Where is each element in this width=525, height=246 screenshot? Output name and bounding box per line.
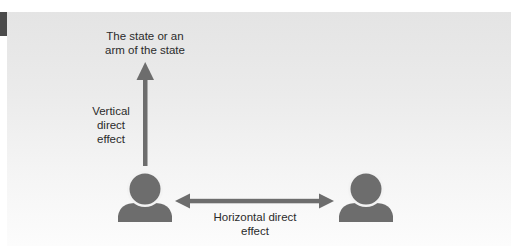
arrowhead-left-icon bbox=[175, 194, 190, 209]
state-label-line1: The state or an bbox=[85, 29, 205, 43]
arrowhead-right-icon bbox=[319, 194, 334, 209]
person-right-icon bbox=[339, 171, 393, 222]
horizontal-label-line2: effect bbox=[195, 224, 315, 238]
state-label-line2: arm of the state bbox=[85, 43, 205, 57]
vertical-label-line3: effect bbox=[76, 132, 146, 146]
diagram-stage: The state or an arm of the state Vertica… bbox=[0, 0, 525, 246]
horizontal-effect-label: Horizontal direct effect bbox=[195, 210, 315, 238]
person-left-icon bbox=[118, 171, 172, 222]
vertical-label-line2: direct bbox=[76, 118, 146, 132]
vertical-label-line1: Vertical bbox=[76, 104, 146, 118]
state-node-label: The state or an arm of the state bbox=[85, 29, 205, 57]
vertical-effect-label: Vertical direct effect bbox=[76, 104, 146, 146]
arrowhead-up-icon bbox=[137, 62, 155, 80]
horizontal-label-line1: Horizontal direct bbox=[195, 210, 315, 224]
horizontal-arrow-shaft bbox=[186, 199, 323, 204]
horizontal-arrow bbox=[175, 194, 334, 209]
